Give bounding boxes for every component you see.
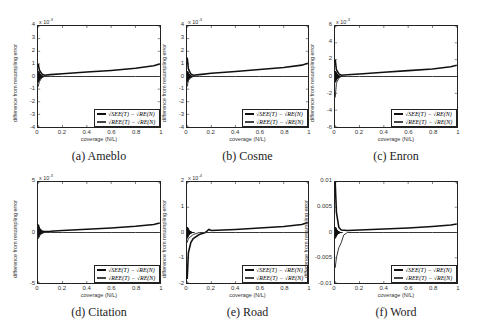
y-tick-label: 0 xyxy=(316,229,332,235)
x-tick-label: 0.4 xyxy=(376,285,392,291)
legend-swatch-icon xyxy=(245,269,254,271)
legend-entry: √SEE(T) − √RE(N) xyxy=(394,266,454,274)
legend-entry: √REE(T) − √RE(N) xyxy=(97,274,157,282)
x-tick-label: 0 xyxy=(29,129,45,135)
y-tick-label: 0 xyxy=(168,229,184,235)
y-exponent-label: x 10-4 xyxy=(188,173,202,181)
x-axis-label: coverage (N/L) xyxy=(186,292,309,298)
y-exponent-power: -4 xyxy=(198,173,202,178)
y-tick-label: 5 xyxy=(19,177,35,183)
legend-swatch-icon xyxy=(97,121,106,123)
y-exponent-power: -3 xyxy=(49,17,53,22)
y-tick-label: 2 xyxy=(316,55,332,61)
y-tick-label: 0 xyxy=(19,73,35,79)
y-axis-label: difference from resampling error xyxy=(12,200,18,278)
x-axis-label: coverage (N/L) xyxy=(186,136,309,142)
y-tick-label: -4 xyxy=(316,107,332,113)
y-tick-label: 6 xyxy=(316,21,332,27)
x-tick-label: 0.4 xyxy=(227,285,243,291)
x-axis-label: coverage (N/L) xyxy=(37,136,161,142)
y-tick-label: -3 xyxy=(19,111,35,117)
legend-swatch-icon xyxy=(245,113,254,115)
legend-entry: √REE(T) − √RE(N) xyxy=(394,118,454,126)
subfigure-caption: (a) Ameblo xyxy=(27,149,171,164)
series-line-1 xyxy=(187,233,308,243)
y-tick-label: 0.01 xyxy=(310,177,332,183)
subfigure-caption: (f) Word xyxy=(324,305,468,320)
x-tick-label: 0.6 xyxy=(103,129,119,135)
x-axis-label: coverage (N/L) xyxy=(334,292,458,298)
y-exponent-power: -3 xyxy=(198,17,202,22)
x-tick-label: 0 xyxy=(178,285,194,291)
x-tick-label: 0.4 xyxy=(79,129,95,135)
y-tick-label: 4 xyxy=(19,21,35,27)
x-tick-label: 0 xyxy=(326,129,342,135)
series-line-1 xyxy=(38,233,160,239)
x-tick-label: 0.2 xyxy=(203,129,219,135)
legend-entry: √REE(T) − √RE(N) xyxy=(97,118,157,126)
y-tick-label: 0 xyxy=(19,229,35,235)
x-tick-label: 0 xyxy=(178,129,194,135)
y-exponent-label: x 10-3 xyxy=(39,17,53,25)
x-tick-label: 1 xyxy=(301,129,317,135)
y-tick-label: -1 xyxy=(19,85,35,91)
y-tick-label: 3 xyxy=(19,34,35,40)
x-tick-label: 0.4 xyxy=(376,129,392,135)
y-axis-label: difference from resampling error xyxy=(161,200,167,278)
legend-swatch-icon xyxy=(394,113,403,115)
chart-legend: √SEE(T) − √RE(N)√REE(T) − √RE(N) xyxy=(242,109,308,127)
chart-legend: √SEE(T) − √RE(N)√REE(T) − √RE(N) xyxy=(391,265,457,283)
y-tick-label: 0 xyxy=(168,73,184,79)
x-tick-label: 0.4 xyxy=(79,285,95,291)
x-tick-label: 1 xyxy=(450,129,466,135)
y-axis-label: difference from resampling error xyxy=(309,44,315,122)
x-tick-label: 1 xyxy=(450,285,466,291)
legend-entry: √SEE(T) − √RE(N) xyxy=(97,266,157,274)
series-line-1 xyxy=(38,77,160,87)
y-exponent-base: x 10 xyxy=(39,175,49,181)
y-exponent-base: x 10 xyxy=(188,19,198,25)
x-tick-label: 0.2 xyxy=(203,285,219,291)
legend-swatch-icon xyxy=(245,121,254,123)
legend-label: √SEE(T) − √RE(N) xyxy=(256,266,303,274)
legend-entry: √SEE(T) − √RE(N) xyxy=(245,110,305,118)
subfigure-caption: (c) Enron xyxy=(324,149,468,164)
legend-label: √SEE(T) − √RE(N) xyxy=(405,266,452,274)
x-tick-label: 0.8 xyxy=(276,285,292,291)
y-tick-label: 1 xyxy=(19,60,35,66)
x-tick-label: 0.8 xyxy=(425,285,441,291)
y-exponent-label: x 10-3 xyxy=(336,17,350,25)
x-tick-label: 0.6 xyxy=(252,129,268,135)
legend-label: √REE(T) − √RE(N) xyxy=(108,274,155,282)
y-axis-label: difference from resampling error xyxy=(12,44,18,122)
y-tick-label: 1 xyxy=(168,203,184,209)
y-tick-label: 4 xyxy=(316,38,332,44)
y-tick-label: -2 xyxy=(316,90,332,96)
y-exponent-label: x 10-3 xyxy=(188,17,202,25)
legend-entry: √SEE(T) − √RE(N) xyxy=(97,110,157,118)
legend-label: √REE(T) − √RE(N) xyxy=(108,118,155,126)
legend-entry: √REE(T) − √RE(N) xyxy=(245,118,305,126)
chart-legend: √SEE(T) − √RE(N)√REE(T) − √RE(N) xyxy=(242,265,308,283)
y-axis-label: difference from resampling error xyxy=(303,200,309,278)
y-tick-label: -1 xyxy=(168,254,184,260)
x-tick-label: 0.8 xyxy=(128,129,144,135)
x-tick-label: 0.2 xyxy=(54,285,70,291)
y-tick-label: 2 xyxy=(168,47,184,53)
y-tick-label: 0.005 xyxy=(310,203,332,209)
x-tick-label: 0.6 xyxy=(400,129,416,135)
series-line-0 xyxy=(335,60,457,76)
x-tick-label: 0 xyxy=(326,285,342,291)
legend-entry: √REE(T) − √RE(N) xyxy=(394,274,454,282)
chart-legend: √SEE(T) − √RE(N)√REE(T) − √RE(N) xyxy=(391,109,457,127)
x-tick-label: 0.8 xyxy=(425,129,441,135)
legend-label: √REE(T) − √RE(N) xyxy=(405,118,452,126)
x-tick-label: 0.6 xyxy=(400,285,416,291)
legend-label: √SEE(T) − √RE(N) xyxy=(108,266,155,274)
x-tick-label: 0.2 xyxy=(351,285,367,291)
series-line-1 xyxy=(335,233,457,268)
y-exponent-base: x 10 xyxy=(188,175,198,181)
y-tick-label: 1 xyxy=(168,60,184,66)
y-tick-label: -3 xyxy=(168,111,184,117)
y-tick-label: -1 xyxy=(168,85,184,91)
